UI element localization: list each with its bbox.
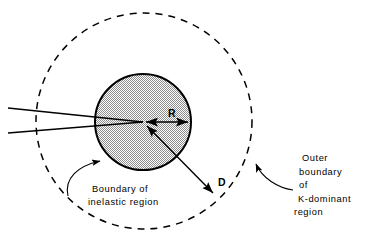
inelastic-callout-line-1: Boundary of [92,184,148,194]
crack-tip-region-diagram: R D Boundary of inelastic region Outer b… [0,0,367,241]
outer-callout-line-3: of [299,180,308,190]
k-dominant-region-callout: Outer boundary of K-dominant region [294,153,351,217]
outer-callout-line-5: region [294,207,323,217]
outer-callout-leader [256,164,293,190]
inelastic-region-callout: Boundary of inelastic region [88,184,159,207]
radius-label: R [168,107,176,119]
outer-callout-line-4: K-dominant [298,194,351,204]
diameter-label: D [218,176,226,188]
inelastic-callout-line-2: inelastic region [88,197,159,207]
outer-callout-line-2: boundary [299,167,342,177]
figure-canvas: R D Boundary of inelastic region Outer b… [0,0,367,241]
outer-callout-line-1: Outer [302,153,328,163]
